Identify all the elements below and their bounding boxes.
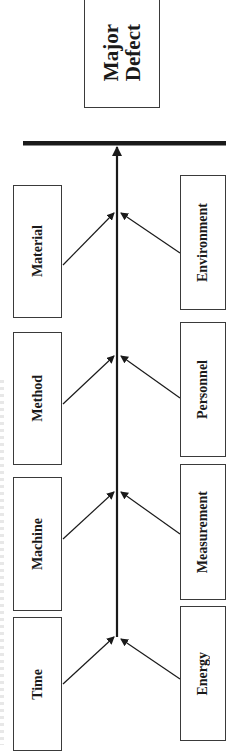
cause-label: Machine <box>30 518 46 570</box>
cause-label: Time <box>30 669 46 700</box>
cause-label: Method <box>30 375 46 422</box>
cause-box-energy: Energy <box>180 606 226 741</box>
cause-label: Measurement <box>195 491 211 573</box>
cause-box-machine: Machine <box>13 477 62 611</box>
effect-label-line1: Major <box>99 24 123 81</box>
cause-box-material: Material <box>13 185 62 318</box>
effect-box-major-defect: Major Defect <box>84 0 160 108</box>
cause-label: Material <box>30 225 46 277</box>
cause-box-method: Method <box>13 332 62 465</box>
effect-label-line2: Defect <box>121 24 145 81</box>
effect-bar <box>23 141 226 146</box>
effect-label: Major Defect <box>100 24 144 81</box>
cause-label: Energy <box>195 652 211 696</box>
cause-label: Personnel <box>195 360 211 419</box>
cause-label: Environment <box>195 203 211 282</box>
cause-box-personnel: Personnel <box>180 322 226 457</box>
cause-box-time: Time <box>13 617 62 751</box>
cause-box-environment: Environment <box>180 175 226 310</box>
cause-box-measurement: Measurement <box>180 464 226 600</box>
